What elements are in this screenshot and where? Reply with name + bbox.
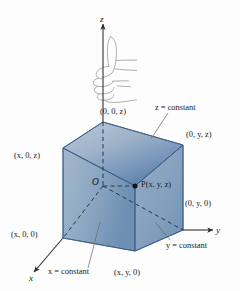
vertex-label-top-back: (0, 0, z) bbox=[100, 108, 126, 116]
point-marker-icon bbox=[133, 184, 138, 189]
x-axis-label: x bbox=[29, 274, 33, 283]
y-axis-label: y bbox=[216, 226, 220, 235]
plane-label-x-constant: x = constant bbox=[48, 268, 89, 276]
plane-label-z-constant: z = constant bbox=[155, 104, 196, 112]
vertex-label-bottom-left: (x, 0, 0) bbox=[11, 231, 38, 239]
vertex-label-top-right: (0, y, z) bbox=[186, 131, 212, 139]
vertex-label-top-left: (x, 0, z) bbox=[14, 152, 40, 160]
coordinate-box-figure: z y x O P(x, y, z) (0, 0, z) (0, y, z) (… bbox=[0, 0, 240, 291]
point-p-label: P(x, y, z) bbox=[141, 181, 171, 189]
origin-label: O bbox=[92, 178, 99, 187]
thumbs-up-hand-icon bbox=[93, 37, 137, 103]
vertex-label-bottom-right: (0, y, 0) bbox=[185, 200, 211, 208]
vertex-label-bottom-front: (x, y, 0) bbox=[114, 269, 140, 277]
plane-label-y-constant: y = constant bbox=[166, 242, 207, 250]
z-axis-label: z bbox=[100, 15, 104, 24]
